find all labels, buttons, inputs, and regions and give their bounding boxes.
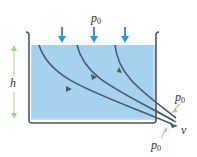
p-subscript: 0	[157, 144, 161, 153]
water	[31, 45, 156, 120]
outlet-pressure-lower-label: p0	[151, 139, 161, 153]
velocity-label: v	[181, 124, 186, 136]
p-subscript: 0	[97, 17, 101, 26]
outlet-pressure-upper-label: p0	[175, 91, 185, 105]
p-subscript: 0	[181, 96, 185, 105]
top-pressure-label: p0	[91, 12, 101, 26]
pressure-arrows	[58, 27, 129, 43]
height-label: h	[10, 77, 16, 89]
